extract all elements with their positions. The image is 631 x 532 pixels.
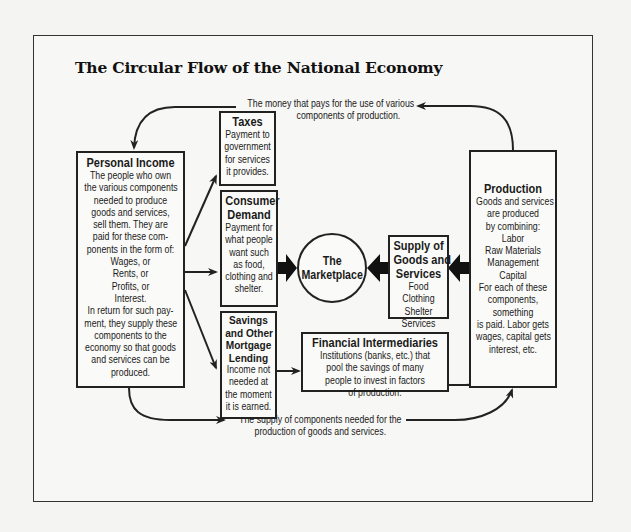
personal-income-box: Personal Income The people who own the v… (76, 151, 185, 388)
taxes-heading: Taxes (224, 115, 271, 129)
savings-box: Savings and Other Mortgage Lending Incom… (220, 311, 277, 419)
supply-box: Supply of Goods and Services Food Clothi… (388, 235, 449, 319)
personal-income-body: The people who own the various component… (84, 170, 176, 379)
marketplace-circle: The Marketplace (297, 233, 367, 303)
diagram-title: The Circular Flow of the National Econom… (75, 58, 442, 77)
consumer-demand-box: Consumer Demand Payment for what people … (220, 190, 278, 307)
production-heading: Production (476, 182, 550, 196)
supply-body: Food Clothing Shelter Services (393, 281, 443, 330)
consumer-demand-body: Payment for what people want such as foo… (225, 222, 273, 296)
savings-body: Income not needed at the moment it is ea… (225, 364, 272, 413)
production-box: Production Goods and services are produc… (469, 150, 557, 388)
marketplace-label-line1: The (323, 254, 342, 268)
taxes-box: Taxes Payment to government for services… (219, 111, 276, 186)
savings-heading: Savings and Other Mortgage Lending (225, 314, 272, 364)
marketplace-label-line2: Marketplace (301, 268, 362, 282)
personal-income-heading: Personal Income (84, 156, 176, 170)
taxes-body: Payment to government for services it pr… (224, 129, 271, 178)
financial-intermediaries-box: Financial Intermediaries Institutions (b… (301, 332, 449, 392)
financial-intermediaries-heading: Financial Intermediaries (312, 336, 439, 350)
supply-heading: Supply of Goods and Services (393, 239, 443, 281)
consumer-demand-heading: Consumer Demand (225, 194, 273, 222)
financial-intermediaries-body: Institutions (banks, etc.) that pool the… (312, 350, 439, 399)
production-body: Goods and services are produced by combi… (476, 196, 550, 356)
